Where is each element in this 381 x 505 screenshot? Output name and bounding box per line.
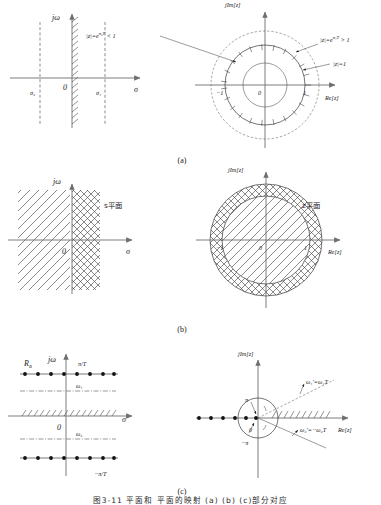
angle-arc-upper (264, 406, 266, 411)
label-origin-zc: 0 (249, 426, 253, 433)
label-jomega: jω (51, 13, 60, 22)
label-origin: 0 (63, 83, 67, 92)
leader-outer-label (296, 44, 318, 52)
label-region-rb: RB (23, 359, 32, 369)
label-pi-over-t: π/T (78, 360, 87, 367)
figure-bottom-caption: 图3-11 平面和 平面的映射 (a) (b) (c)部分对应 (0, 494, 381, 505)
wedge-axis-hatching (272, 411, 330, 418)
label-omega1-c: ω₁ (76, 382, 83, 389)
label-omega1-prime: ω₁'=ω₁T (306, 378, 329, 385)
label-outer-magnitude: |z|=eσ₁T > 1 (320, 35, 350, 43)
label-plus-one-b: 1 (304, 244, 307, 251)
label-rez-b: Re[z] (327, 248, 342, 255)
label-rez: Re[z] (324, 94, 339, 101)
caption-b: (b) (177, 325, 187, 334)
sigma-axis-hatching-c (22, 410, 116, 416)
figure-caption-text: 图3-11 平面和 平面的映射 (a) (b) (c)部分对应 (93, 496, 289, 505)
panel-c-left-splane: RB jω π/T ω₁ 0 ω₂ σ −π/T (8, 354, 132, 477)
panel-a: jω 0 σ σ₂ σ₁ (0, 0, 381, 168)
label-z-plane-cn: z平面 (302, 201, 320, 210)
label-pi-angle: π (245, 396, 249, 403)
label-minus-one: −1 (216, 89, 223, 96)
panel-b: jω 0 σ s平面 jIm[z] (0, 166, 381, 336)
wedge-ray-lower (258, 418, 326, 448)
label-omega2-c: ω₂ (76, 430, 83, 437)
label-unit-magnitude: |z|=1 (333, 60, 346, 67)
label-minus-pi-angle: −π (241, 439, 249, 446)
label-omega2-prime: ω₂'=−ω₂T (300, 426, 327, 433)
label-sigma1: σ₁ (96, 89, 101, 96)
panel-a-left-splane: jω 0 σ σ₂ σ₁ (10, 13, 140, 128)
label-origin-c: 0 (57, 423, 61, 432)
label-origin-b: 0 (62, 247, 66, 256)
label-sigma2: σ₂ (30, 89, 35, 96)
label-s-plane-cn: s平面 (104, 201, 122, 210)
panel-b-left-splane: jω 0 σ s平面 (8, 177, 132, 294)
label-origin-z: 0 (258, 89, 262, 96)
panel-b-svg: jω 0 σ s平面 jIm[z] (0, 166, 381, 336)
label-rez-c: Re[z] (337, 426, 352, 433)
label-jimz: jIm[z] (224, 1, 241, 8)
label-jomega-c: jω (47, 355, 56, 364)
panel-c-right-zplane: jIm[z] Re[z] π −π 0 ω₁'=ω₁T ω₂'=−ω₂T (196, 350, 352, 478)
label-sigma-b: σ (126, 247, 131, 256)
panel-a-svg: jω 0 σ σ₂ σ₁ (0, 0, 381, 168)
label-sigma: σ (134, 85, 139, 94)
label-jimz-c: jIm[z] (237, 350, 254, 357)
label-minus-pi-over-t: −π/T (94, 470, 107, 477)
leader-omega1p (300, 384, 304, 394)
angle-arc-lower (263, 425, 266, 430)
panel-c-svg: RB jω π/T ω₁ 0 ω₂ σ −π/T (0, 336, 381, 504)
leader-unit-label (303, 64, 330, 70)
label-jimz-b: jIm[z] (227, 166, 244, 173)
leader-pi (251, 402, 256, 414)
label-plus-one: 1 (303, 89, 306, 96)
leader-inner-label (160, 36, 236, 62)
panel-c: RB jω π/T ω₁ 0 ω₂ σ −π/T (0, 336, 381, 504)
label-inner-magnitude: |z|=eσ₂T < 1 (86, 31, 116, 39)
label-jomega-b: jω (52, 177, 61, 186)
wedge-ray-upper (258, 380, 334, 418)
label-minus-one-b: −1 (216, 244, 223, 251)
caption-a: (a) (178, 156, 187, 165)
jomega-axis-hatching (72, 17, 78, 124)
panel-a-right-zplane: jIm[z] Re[z] 0 −1 1 |z|=eσ₂T < 1 |z|=eσ₁… (86, 1, 350, 148)
panel-b-right-zplane: jIm[z] Re[z] 0 −1 1 z平面 (196, 166, 342, 309)
